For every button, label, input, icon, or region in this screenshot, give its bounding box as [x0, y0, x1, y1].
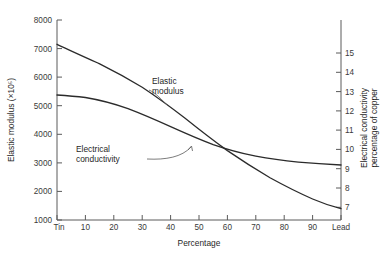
x-tick-label: Tin	[53, 223, 65, 232]
y-tick-label: 2000	[34, 187, 53, 196]
x-tick-label: 90	[308, 223, 318, 232]
y-tick-label: 5000	[34, 102, 53, 111]
y-tick-label: 3000	[34, 159, 53, 168]
y-right-ticks	[336, 53, 341, 207]
plot-axes	[57, 20, 341, 220]
y2-tick-label: 11	[345, 126, 354, 135]
x-tick-label: 80	[280, 223, 290, 232]
series-elastic-modulus-curve	[57, 44, 341, 208]
annotation-elastic-modulus: Elastic modulus	[149, 76, 184, 106]
alloy-properties-line-chart: 8000 7000 6000 5000 4000 3000 2000 1000 …	[0, 0, 385, 262]
annotation-conductivity-line2: conductivity	[76, 154, 121, 164]
y2-tick-label: 12	[345, 107, 355, 116]
y-tick-label: 1000	[34, 216, 53, 225]
x-tick-label: 20	[109, 223, 119, 232]
x-tick-label: 10	[81, 223, 91, 232]
annotation-elastic-modulus-line1: Elastic	[152, 76, 177, 86]
y-axis-title: Elastic modulus (×10⁵)	[6, 78, 16, 162]
y2-tick-label: 8	[345, 184, 350, 193]
y2-axis-title-line1: Electrical conductivity	[359, 87, 369, 168]
chart-figure: 8000 7000 6000 5000 4000 3000 2000 1000 …	[0, 0, 385, 262]
x-tick-label: Lead	[332, 223, 351, 232]
x-tick-label: 50	[194, 223, 204, 232]
leader-arrowhead-icon	[188, 146, 193, 151]
y-tick-label: 8000	[34, 16, 53, 25]
annotation-electrical-conductivity: Electrical conductivity	[76, 144, 193, 164]
y2-axis-title-line2: percentage of copper	[369, 88, 379, 167]
y2-tick-label: 15	[345, 49, 355, 58]
annotation-conductivity-line1: Electrical	[76, 144, 110, 154]
annotation-elastic-modulus-line2: modulus	[152, 86, 184, 96]
y2-tick-label: 13	[345, 88, 355, 97]
y-tick-label: 7000	[34, 45, 53, 54]
x-ticks	[57, 215, 341, 220]
y-left-ticks	[57, 20, 62, 220]
x-tick-labels: Tin 10 20 30 40 50 60 70 80 90 Lead	[53, 223, 350, 232]
x-tick-label: 60	[223, 223, 233, 232]
x-tick-label: 40	[166, 223, 176, 232]
x-axis-title: Percentage	[178, 238, 221, 248]
y-right-tick-labels: 7 8 9 10 11 12 13 14 15	[345, 49, 355, 212]
y2-tick-label: 7	[345, 203, 350, 212]
y2-tick-label: 9	[345, 165, 350, 174]
y-left-tick-labels: 8000 7000 6000 5000 4000 3000 2000 1000	[34, 16, 53, 225]
x-tick-label: 70	[251, 223, 261, 232]
y-tick-label: 4000	[34, 130, 53, 139]
y2-tick-label: 10	[345, 145, 355, 154]
axis-frame	[57, 20, 341, 220]
y2-tick-label: 14	[345, 68, 355, 77]
y-tick-label: 6000	[34, 73, 53, 82]
x-tick-label: 30	[138, 223, 148, 232]
